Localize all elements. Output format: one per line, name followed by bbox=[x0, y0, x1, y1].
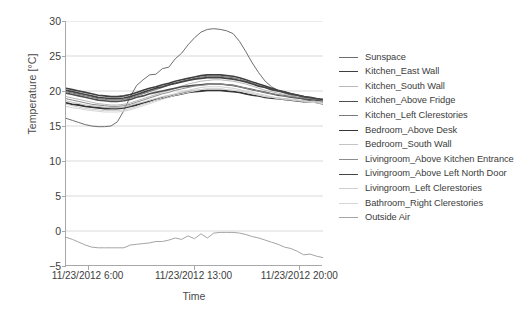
legend-item[interactable]: Livingroom_Left Clerestories bbox=[339, 181, 502, 196]
plot-area bbox=[65, 21, 322, 266]
legend-label: Livingroom_Above Left North Door bbox=[365, 169, 507, 178]
legend-label: Kitchen_South Wall bbox=[365, 82, 445, 91]
legend-item[interactable]: Bedroom_South Wall bbox=[339, 138, 502, 153]
legend-label: Sunspace bbox=[365, 53, 406, 62]
legend-item[interactable]: Outside Air bbox=[339, 211, 502, 226]
legend-item[interactable]: Kitchen_Above Fridge bbox=[339, 94, 502, 109]
legend-label: Bedroom_South Wall bbox=[365, 140, 452, 149]
legend-line-swatch bbox=[339, 101, 358, 102]
legend-item[interactable]: Kitchen_East Wall bbox=[339, 65, 502, 80]
y-axis-title: Temperature [°C] bbox=[26, 24, 38, 164]
legend-line-swatch bbox=[339, 203, 358, 204]
legend-item[interactable]: Kitchen_South Wall bbox=[339, 79, 502, 94]
legend-label: Livingroom_Above Kitchen Entrance bbox=[365, 155, 514, 164]
x-axis-title: Time bbox=[65, 290, 323, 302]
series-line bbox=[66, 232, 323, 257]
legend-line-swatch bbox=[339, 115, 358, 116]
legend-label: Livingroom_Left Clerestories bbox=[365, 184, 482, 193]
legend-label: Kitchen_Above Fridge bbox=[365, 96, 455, 105]
x-tick-label: 11/23/2012 20:00 bbox=[239, 270, 359, 281]
legend-line-swatch bbox=[339, 188, 358, 189]
legend-label: Kitchen_Left Clerestories bbox=[365, 111, 468, 120]
legend-label: Bathroom_Right Clerestories bbox=[365, 199, 483, 208]
legend-line-swatch bbox=[339, 71, 358, 72]
legend-item[interactable]: Kitchen_Left Clerestories bbox=[339, 108, 502, 123]
legend-label: Bedroom_Above Desk bbox=[365, 126, 457, 135]
legend-item[interactable]: Sunspace bbox=[339, 50, 502, 65]
legend-item[interactable]: Livingroom_Above Left North Door bbox=[339, 167, 502, 182]
legend-line-swatch bbox=[339, 159, 358, 160]
legend-line-swatch bbox=[339, 144, 358, 145]
y-tick-label: 0 bbox=[33, 225, 61, 237]
legend-line-swatch bbox=[339, 130, 358, 131]
legend-label: Kitchen_East Wall bbox=[365, 67, 439, 76]
legend-line-swatch bbox=[339, 86, 358, 87]
y-tick-mark bbox=[62, 266, 66, 267]
legend-line-swatch bbox=[339, 217, 358, 218]
legend-item[interactable]: Bedroom_Above Desk bbox=[339, 123, 502, 138]
legend-item[interactable]: Bathroom_Right Clerestories bbox=[339, 196, 502, 211]
legend-line-swatch bbox=[339, 57, 358, 58]
chart-legend: SunspaceKitchen_East WallKitchen_South W… bbox=[339, 50, 502, 225]
legend-line-swatch bbox=[339, 174, 358, 175]
x-tick-label: 11/23/2012 13:00 bbox=[134, 270, 254, 281]
x-tick-label: 11/23/2012 6:00 bbox=[28, 270, 148, 281]
legend-item[interactable]: Livingroom_Above Kitchen Entrance bbox=[339, 152, 502, 167]
series-canvas bbox=[66, 21, 323, 266]
legend-label: Outside Air bbox=[365, 213, 410, 222]
y-tick-label: 5 bbox=[33, 190, 61, 202]
